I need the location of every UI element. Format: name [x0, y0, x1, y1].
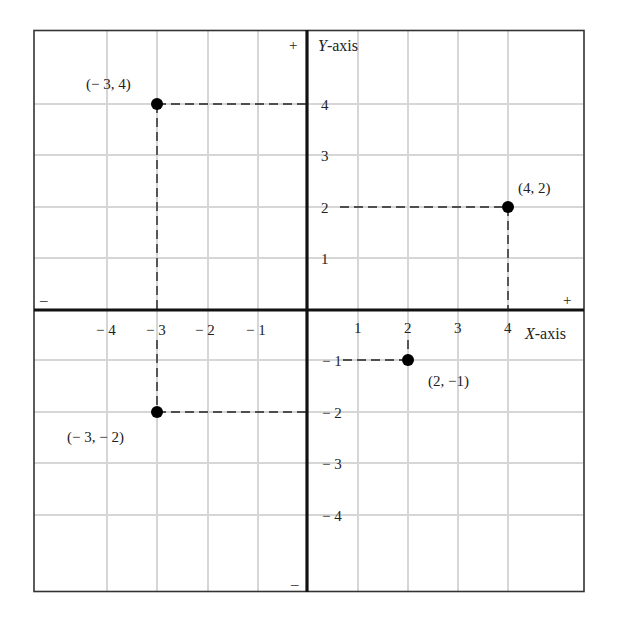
point-label-minus3-4: (− 3, 4) — [86, 76, 131, 93]
point-minus3-4 — [151, 98, 163, 110]
y-tick-3: 3 — [321, 148, 329, 164]
point-label-4-2: (4, 2) — [518, 180, 551, 197]
x-tick-minus1: − 1 — [246, 322, 266, 338]
coordinate-plane: (− 3, 4) (4, 2) (2, −1) (− 3, − 2) − 4 −… — [0, 0, 617, 627]
y-axis-title-rest: -axis — [327, 37, 358, 54]
x-tick-minus4: − 4 — [96, 322, 116, 338]
x-tick-1: 1 — [354, 320, 362, 336]
x-tick-minus3: − 3 — [146, 322, 166, 338]
x-negative-sign: – — [39, 292, 48, 308]
point-label-minus3-minus2: (− 3, − 2) — [67, 429, 124, 446]
y-tick-2: 2 — [321, 200, 329, 216]
x-tick-minus2: − 2 — [195, 322, 215, 338]
x-axis-title: X-axis — [524, 325, 566, 342]
y-negative-sign: – — [290, 576, 299, 592]
y-axis-title: Y-axis — [318, 37, 358, 54]
point-label-2-minus1: (2, −1) — [428, 373, 469, 390]
point-4-2 — [502, 201, 514, 213]
x-tick-3: 3 — [454, 320, 462, 336]
x-tick-4: 4 — [504, 320, 512, 336]
y-tick-minus4: − 4 — [322, 508, 342, 524]
y-tick-1: 1 — [321, 251, 329, 267]
y-tick-minus2: − 2 — [322, 405, 342, 421]
y-positive-sign: + — [289, 37, 297, 53]
y-tick-4: 4 — [321, 97, 329, 113]
y-tick-minus3: − 3 — [322, 456, 342, 472]
x-tick-labels: − 4 − 3 − 2 − 1 1 2 3 4 — [96, 320, 512, 338]
x-tick-2: 2 — [404, 320, 412, 336]
x-positive-sign: + — [563, 292, 571, 308]
point-minus3-minus2 — [151, 406, 163, 418]
x-axis-title-rest: -axis — [535, 325, 566, 342]
y-tick-minus1: − 1 — [322, 353, 342, 369]
point-2-minus1 — [402, 354, 414, 366]
